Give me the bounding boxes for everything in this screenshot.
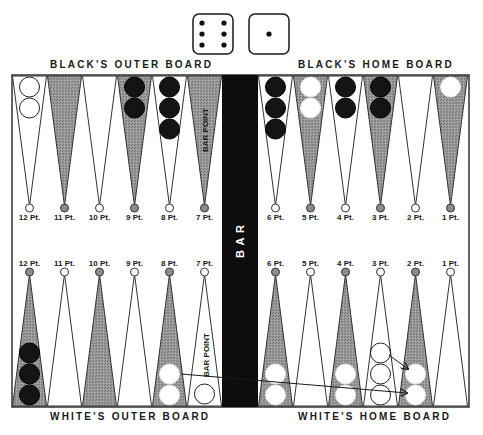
white-checker[interactable] [336,364,356,384]
point-tip-marker [342,204,350,212]
point-label: 8 Pt. [161,213,178,222]
point-tip-marker [272,204,280,212]
point-label: 7 Pt. [196,213,213,222]
black-checker[interactable] [336,77,356,97]
point-tip-marker [342,268,350,276]
white-checker[interactable] [406,385,426,405]
point-tip-marker [412,204,420,212]
point-label: 12 Pt. [19,213,40,222]
white-home-board-label: WHITE'S HOME BOARD [298,411,451,422]
point-label: 12 Pt. [19,259,40,268]
black-checker[interactable] [336,98,356,118]
black-checker[interactable] [20,385,40,405]
white-checker[interactable] [195,384,215,404]
point-tip-marker [447,204,455,212]
black-outer-board-label: BLACK'S OUTER BOARD [50,59,213,70]
black-checker[interactable] [160,119,180,139]
black-checker[interactable] [125,77,145,97]
point-label: 11 Pt. [54,213,75,222]
die-six-icon [193,14,233,54]
point-label: 9 Pt. [126,259,143,268]
black-checker[interactable] [125,98,145,118]
point-tip-marker [131,204,139,212]
black-checker[interactable] [20,343,40,363]
white-outer-board-label: WHITE'S OUTER BOARD [50,411,210,422]
white-checker[interactable] [20,77,40,97]
point-tip-marker [96,204,104,212]
black-checker[interactable] [266,98,286,118]
point-tip-marker [307,268,315,276]
white-checker[interactable] [441,77,461,97]
black-checker[interactable] [371,77,391,97]
point-tip-marker [166,204,174,212]
point-tip-marker [201,204,209,212]
point-tip-marker [61,268,69,276]
point-tip-marker [26,268,34,276]
black-home-board-label: BLACK'S HOME BOARD [298,59,454,70]
bar-label: B A R [234,224,246,258]
point-tip-marker [377,268,385,276]
black-checker[interactable] [266,77,286,97]
point-tip-marker [166,268,174,276]
point-label: 1 Pt. [442,259,459,268]
point-label: 4 Pt. [337,213,354,222]
bar-point-label-bottom: BAR POINT [202,333,211,377]
point-tip-marker [61,204,69,212]
black-checker[interactable] [371,98,391,118]
black-checker[interactable] [20,364,40,384]
point-label: 5 Pt. [302,259,319,268]
point-tip-marker [412,268,420,276]
point-tip-marker [201,268,209,276]
point-label: 5 Pt. [302,213,319,222]
black-checker[interactable] [160,77,180,97]
point-tip-marker [131,268,139,276]
point-label: 10 Pt. [89,259,110,268]
point-label: 3 Pt. [372,213,389,222]
point-tip-marker [447,268,455,276]
point-tip-marker [272,268,280,276]
point-tip-marker [377,204,385,212]
point-tip-marker [26,204,34,212]
point-label: 10 Pt. [89,213,110,222]
die-one-icon [249,14,289,54]
point-tip-marker [96,268,104,276]
white-checker[interactable] [20,98,40,118]
point-label: 3 Pt. [372,259,389,268]
white-checker[interactable] [301,77,321,97]
point-label: 1 Pt. [442,213,459,222]
point-label: 11 Pt. [54,259,75,268]
point-label: 6 Pt. [267,213,284,222]
black-checker[interactable] [160,98,180,118]
point-label: 7 Pt. [196,259,213,268]
point-label: 2 Pt. [407,259,424,268]
white-checker[interactable] [406,364,426,384]
white-checker[interactable] [160,364,180,384]
black-checker[interactable] [266,119,286,139]
point-tip-marker [307,204,315,212]
point-label: 6 Pt. [267,259,284,268]
white-checker[interactable] [266,385,286,405]
bar-point-label-top: BAR POINT [201,108,210,152]
point-label: 2 Pt. [407,213,424,222]
white-checker[interactable] [160,385,180,405]
point-label: 9 Pt. [126,213,143,222]
point-label: 4 Pt. [337,259,354,268]
white-checker[interactable] [301,98,321,118]
point-label: 8 Pt. [161,259,178,268]
